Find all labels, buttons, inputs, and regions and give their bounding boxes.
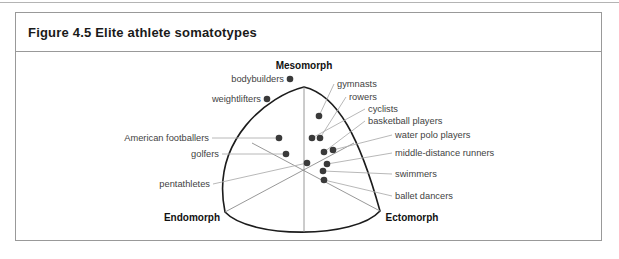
- data-point-american-footballers: [276, 135, 283, 142]
- somatochart-svg: [16, 52, 601, 239]
- chart-area: bodybuildersweightliftersgymnastsrowersc…: [16, 52, 601, 240]
- data-point-water-polo-players: [330, 147, 337, 154]
- page-top-rule: [0, 2, 619, 3]
- data-point-basketball-players: [321, 149, 328, 156]
- data-point-gymnasts: [316, 113, 323, 120]
- data-point-swimmers: [320, 168, 327, 175]
- data-point-bodybuilders: [287, 76, 294, 83]
- leader-line-gymnasts: [319, 84, 334, 116]
- data-point-rowers: [317, 135, 324, 142]
- figure-title: Figure 4.5 Elite athlete somatotypes: [28, 25, 257, 40]
- leader-line-pentathletes: [213, 163, 307, 184]
- leader-line-ballet-dancers: [324, 180, 392, 196]
- endomorph-axis-line: [225, 143, 354, 212]
- leader-line-water-polo-players: [333, 135, 392, 150]
- leader-line-middle-distance-runners: [327, 153, 392, 164]
- somatochart-triangle-outline: [223, 87, 380, 232]
- data-point-cyclists: [309, 135, 316, 142]
- figure-panel: Figure 4.5 Elite athlete somatotypes bod…: [15, 12, 602, 241]
- page: { "figure": { "title": "Figure 4.5 Elite…: [0, 0, 619, 259]
- data-point-weightlifters: [264, 96, 271, 103]
- data-point-pentathletes: [304, 160, 311, 167]
- data-point-golfers: [283, 151, 290, 158]
- data-point-middle-distance-runners: [324, 161, 331, 168]
- data-point-ballet-dancers: [321, 177, 328, 184]
- figure-title-bar: Figure 4.5 Elite athlete somatotypes: [16, 13, 601, 52]
- leader-line-swimmers: [323, 171, 392, 174]
